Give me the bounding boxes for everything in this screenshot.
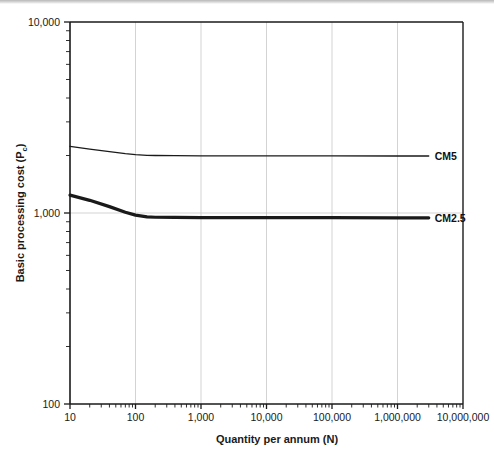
major-tick-marks [64,22,463,409]
series-inline-labels: CM5CM2.5 [435,150,466,224]
x-axis-tick-labels: 101001,00010,000100,0001,000,00010,000,0… [64,411,489,423]
series-label-cm2-5: CM2.5 [435,212,466,224]
series-label-cm5: CM5 [435,150,457,162]
x-tick-label: 10,000 [250,411,282,423]
x-tick-label: 1,000 [188,411,214,423]
x-tick-label: 10 [64,411,76,423]
series-line-cm5 [70,146,429,156]
svg-text:Basic processing cost (Pc): Basic processing cost (Pc) [14,143,29,282]
y-axis-tick-labels: 1001,00010,000 [28,16,60,410]
x-tick-label: 1,000,000 [374,411,421,423]
x-axis-title: Quantity per annum (N) [216,433,339,445]
y-tick-label: 1,000 [34,207,60,219]
series-line-cm2-5 [70,195,429,218]
data-series-lines [70,146,429,217]
x-tick-label: 100,000 [313,411,351,423]
chart-figure: 101001,00010,000100,0001,000,00010,000,0… [0,0,494,457]
y-tick-label: 10,000 [28,16,60,28]
x-tick-label: 10,000,000 [437,411,490,423]
y-tick-label: 100 [42,398,60,410]
log-log-line-chart: 101001,00010,000100,0001,000,00010,000,0… [0,0,494,457]
y-axis-title: Basic processing cost (Pc) [14,143,29,282]
x-tick-label: 100 [127,411,145,423]
